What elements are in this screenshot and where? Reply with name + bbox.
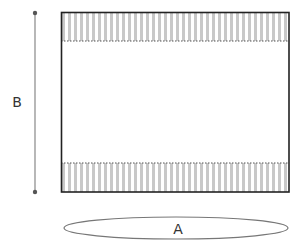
top-striped-band	[61, 12, 289, 41]
height-label: B	[12, 94, 22, 110]
diagram-canvas: B A	[0, 0, 304, 250]
bottom-striped-band	[61, 163, 289, 192]
dimension-b-top-dot	[33, 11, 37, 15]
main-rectangle	[61, 12, 289, 192]
width-label: A	[173, 221, 183, 237]
dimension-b	[33, 11, 37, 194]
dimension-b-bottom-dot	[33, 190, 37, 194]
